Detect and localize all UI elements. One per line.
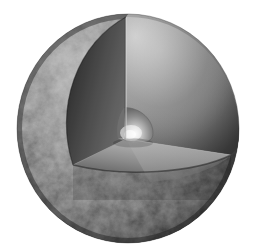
planet-interior-figure: Cutaway diagram of a rocky planet interi… — [0, 0, 255, 249]
planet-cutaway-illustration — [0, 0, 255, 249]
